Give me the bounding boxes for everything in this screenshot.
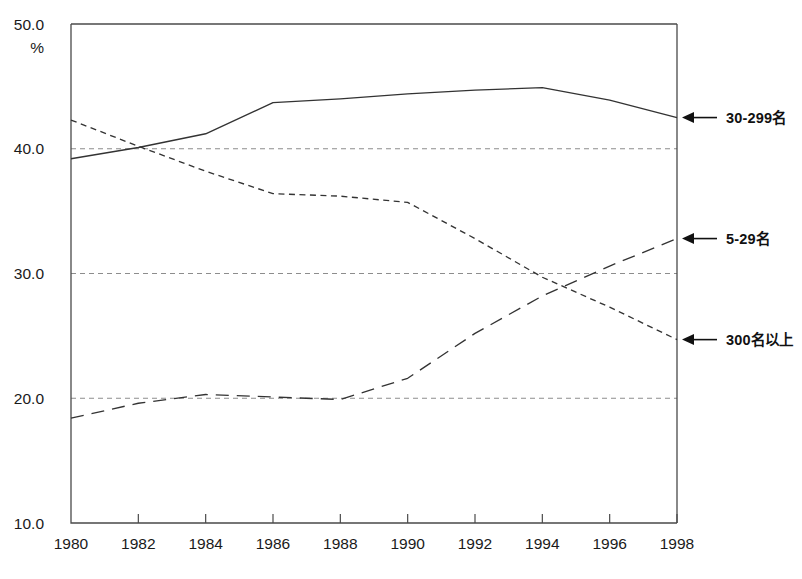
y-tick-label: 50.0 xyxy=(14,16,45,33)
x-tick-label: 1988 xyxy=(323,535,357,552)
chart-container: 50.040.030.020.010.0 1980198219841986198… xyxy=(0,0,802,579)
x-tick-label: 1984 xyxy=(188,535,223,552)
x-axis-ticks xyxy=(138,514,677,523)
x-tick-label: 1998 xyxy=(660,535,694,552)
annotation-label: 300名以上 xyxy=(726,331,794,348)
x-tick-label: 1992 xyxy=(458,535,492,552)
x-axis-tick-labels: 1980198219841986198819901992199419961998 xyxy=(54,535,694,552)
y-axis-unit-label: % xyxy=(30,39,44,56)
series-line-solid xyxy=(71,88,677,159)
line-chart: 50.040.030.020.010.0 1980198219841986198… xyxy=(0,0,802,579)
gridlines xyxy=(71,149,677,399)
x-tick-label: 1996 xyxy=(592,535,626,552)
series-line-dotted xyxy=(71,120,677,340)
annotation-label: 5-29名 xyxy=(726,230,770,247)
x-tick-label: 1982 xyxy=(121,535,155,552)
annotation-5-29名: 5-29名 xyxy=(682,230,770,247)
annotation-30-299名: 30-299名 xyxy=(682,109,787,126)
x-tick-label: 1990 xyxy=(390,535,425,552)
x-tick-label: 1980 xyxy=(54,535,89,552)
annotation-label: 30-299名 xyxy=(726,109,787,126)
x-tick-label: 1994 xyxy=(525,535,560,552)
data-series xyxy=(71,88,677,419)
series-annotations: 30-299名5-29名300名以上 xyxy=(682,109,794,348)
y-tick-label: 20.0 xyxy=(14,390,45,407)
y-tick-label: 30.0 xyxy=(14,265,45,282)
x-tick-label: 1986 xyxy=(256,535,290,552)
annotation-300名以上: 300名以上 xyxy=(682,331,794,348)
y-axis-tick-labels: 50.040.030.020.010.0 xyxy=(14,16,45,532)
y-tick-label: 40.0 xyxy=(14,140,45,157)
y-tick-label: 10.0 xyxy=(14,515,45,532)
series-line-dashed xyxy=(71,239,677,419)
